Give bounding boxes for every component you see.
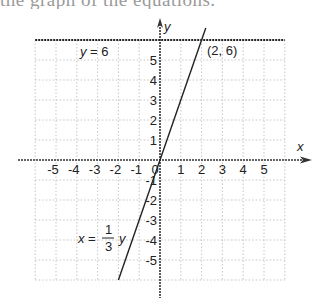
y-tick-label: -3 <box>145 213 157 228</box>
y-axis-arrow-icon <box>157 18 163 28</box>
y-tick-label: -4 <box>145 233 157 248</box>
eq-denominator: 3 <box>105 239 112 254</box>
y-axis-label: y <box>163 19 172 34</box>
x-tick-label: 2 <box>198 162 205 177</box>
x-tick-label: 5 <box>260 162 267 177</box>
eq-numerator: 1 <box>105 222 112 237</box>
y-tick-label: 1 <box>150 133 157 148</box>
y-tick-label: 5 <box>150 53 157 68</box>
annotation-line-equation: x = 1 3 y <box>77 222 127 254</box>
x-tick-label: -3 <box>89 162 101 177</box>
annotation-point-2-6: (2, 6) <box>207 43 237 58</box>
y-tick-label: 3 <box>150 93 157 108</box>
x-tick-label: 3 <box>219 162 226 177</box>
coordinate-plane: -5-4-3-2-112345054321-1-2-3-4-5 x y y = … <box>0 0 329 306</box>
x-tick-label: 1 <box>177 162 184 177</box>
eq-rhs-y: y <box>118 231 127 246</box>
x-tick-label: 4 <box>240 162 247 177</box>
y-tick-label: 4 <box>150 73 157 88</box>
x-tick-label: -1 <box>130 162 142 177</box>
line-x-eq-third-y <box>118 28 205 280</box>
annotation-y-eq-6: y = 6 <box>79 44 109 59</box>
y-tick-label: -5 <box>145 253 157 268</box>
y-tick-label: 2 <box>150 113 157 128</box>
eq-equals: = <box>88 231 96 246</box>
x-tick-label: -4 <box>68 162 80 177</box>
x-tick-label: -5 <box>47 162 59 177</box>
x-tick-label: -2 <box>110 162 122 177</box>
eq-lhs-x: x <box>77 231 85 246</box>
eq-6: = 6 <box>87 44 109 59</box>
x-axis-label: x <box>296 139 304 154</box>
